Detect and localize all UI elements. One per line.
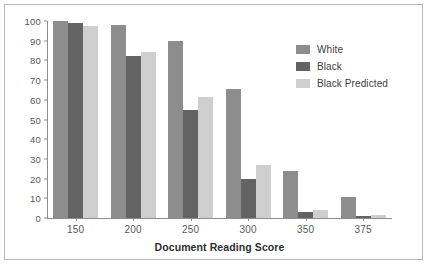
bar-group: 150 <box>47 21 105 218</box>
x-tick-mark <box>76 218 77 221</box>
x-tick-mark <box>191 218 192 221</box>
x-tick-label: 250 <box>182 224 199 235</box>
x-tick-mark <box>363 218 364 221</box>
legend-item: Black <box>296 59 388 74</box>
bar-group: 200 <box>105 21 163 218</box>
x-tick-label: 375 <box>355 224 372 235</box>
x-tick-label: 350 <box>297 224 314 235</box>
bar-black-predicted <box>371 215 386 218</box>
x-axis-line <box>47 218 392 219</box>
legend-label: Black Predicted <box>317 78 388 89</box>
legend-swatch <box>296 79 310 88</box>
bar-black-predicted <box>256 165 271 218</box>
legend-swatch <box>296 45 310 54</box>
x-tick-mark <box>133 218 134 221</box>
bar-white <box>111 25 126 218</box>
bar-black <box>126 56 141 218</box>
x-tick-label: 300 <box>240 224 257 235</box>
bar-black <box>241 179 256 218</box>
bar-white <box>168 41 183 218</box>
x-tick-mark <box>306 218 307 221</box>
chart-legend: WhiteBlackBlack Predicted <box>296 42 388 93</box>
bar-group: 300 <box>220 21 278 218</box>
bar-white <box>283 171 298 218</box>
bar-black-predicted <box>313 210 328 218</box>
x-tick-label: 200 <box>125 224 142 235</box>
legend-swatch <box>296 62 310 71</box>
bar-white <box>341 197 356 218</box>
bar-white <box>53 21 68 218</box>
legend-item: Black Predicted <box>296 76 388 91</box>
bar-black-predicted <box>83 26 98 218</box>
bar-black-predicted <box>198 97 213 218</box>
chart-figure: Percent Above Score 01020304050607080901… <box>0 0 427 272</box>
legend-label: White <box>317 44 343 55</box>
x-axis-title: Document Reading Score <box>47 241 392 253</box>
bar-group: 250 <box>162 21 220 218</box>
x-tick-label: 150 <box>67 224 84 235</box>
legend-item: White <box>296 42 388 57</box>
bar-black <box>68 23 83 218</box>
bar-white <box>226 89 241 218</box>
bar-black <box>183 110 198 218</box>
legend-label: Black <box>317 61 342 72</box>
x-tick-mark <box>248 218 249 221</box>
bar-black-predicted <box>141 52 156 218</box>
